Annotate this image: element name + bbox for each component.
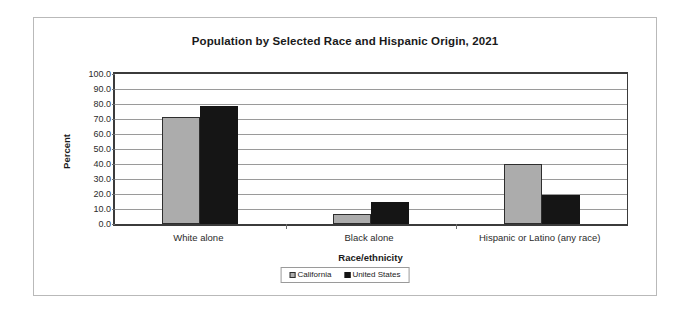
legend-label-united-states: United States	[352, 270, 400, 279]
y-tick-label: 100.0	[88, 69, 111, 79]
legend-item-united-states: United States	[344, 270, 400, 279]
y-tick-label: 20.0	[93, 189, 111, 199]
bars-layer	[115, 74, 627, 224]
legend-swatch-california-icon	[290, 272, 296, 278]
bar-california	[333, 214, 371, 224]
bar-group	[456, 74, 627, 224]
bar-group	[286, 74, 457, 224]
x-tick-mark	[456, 224, 457, 229]
bar-california	[504, 164, 542, 224]
bar-california	[162, 117, 200, 224]
bar-group	[115, 74, 286, 224]
plot-area: 0.010.020.030.040.050.060.070.080.090.01…	[113, 72, 628, 226]
legend-item-california: California	[290, 270, 332, 279]
y-tick-mark	[112, 224, 115, 225]
chart-legend: California United States	[281, 267, 410, 283]
x-tick-label: Black alone	[344, 232, 393, 243]
y-tick-label: 10.0	[93, 204, 111, 214]
bar-united-states	[200, 106, 238, 224]
x-axis-title: Race/ethnicity	[113, 252, 628, 263]
legend-swatch-united-states-icon	[344, 272, 350, 278]
y-tick-label: 50.0	[93, 144, 111, 154]
y-tick-label: 0.0	[98, 219, 111, 229]
y-tick-label: 30.0	[93, 174, 111, 184]
y-tick-label: 70.0	[93, 114, 111, 124]
bar-united-states	[542, 195, 580, 224]
x-tick-label: White alone	[173, 232, 223, 243]
y-tick-label: 60.0	[93, 129, 111, 139]
y-tick-label: 40.0	[93, 159, 111, 169]
legend-label-california: California	[298, 270, 332, 279]
y-tick-label: 80.0	[93, 99, 111, 109]
chart-title: Population by Selected Race and Hispanic…	[34, 35, 656, 47]
x-tick-mark	[286, 224, 287, 229]
y-axis-title: Percent	[61, 112, 72, 192]
x-tick-label: Hispanic or Latino (any race)	[479, 232, 600, 243]
chart-figure: Population by Selected Race and Hispanic…	[33, 17, 657, 296]
bar-united-states	[371, 202, 409, 225]
y-tick-label: 90.0	[93, 84, 111, 94]
